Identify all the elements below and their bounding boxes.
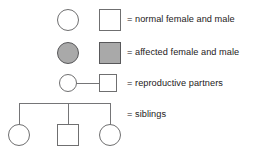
filled-square-affected-male-icon: [99, 42, 121, 64]
legend-label-siblings: = siblings: [127, 109, 166, 120]
legend-row-partners: = reproductive partners: [0, 65, 257, 98]
legend-label-normal: = normal female and male: [127, 14, 235, 25]
sibship-drop-line-left: [19, 103, 20, 125]
open-circle-normal-female-icon: [57, 9, 79, 31]
legend-label-affected: = affected female and male: [127, 47, 239, 58]
open-square-normal-male-icon: [99, 9, 121, 31]
mating-line-connector: [76, 83, 100, 84]
open-square-partner-male-icon: [99, 74, 117, 92]
legend-row-affected: = affected female and male: [0, 33, 257, 67]
legend-row-siblings: = siblings: [0, 98, 257, 156]
legend-row-normal: = normal female and male: [0, 0, 257, 36]
sibship-drop-line-right: [110, 103, 111, 125]
filled-circle-affected-female-icon: [57, 42, 79, 64]
legend-label-partners: = reproductive partners: [127, 78, 223, 89]
sibship-bar: [19, 103, 111, 104]
open-circle-partner-female-icon: [59, 74, 77, 92]
sibship-drop-line-middle: [68, 103, 69, 125]
pedigree-legend: = normal female and male = affected fema…: [0, 0, 257, 156]
open-circle-sibling-female-left-icon: [8, 124, 30, 146]
open-circle-sibling-female-right-icon: [99, 124, 121, 146]
open-square-sibling-male-icon: [57, 124, 79, 146]
